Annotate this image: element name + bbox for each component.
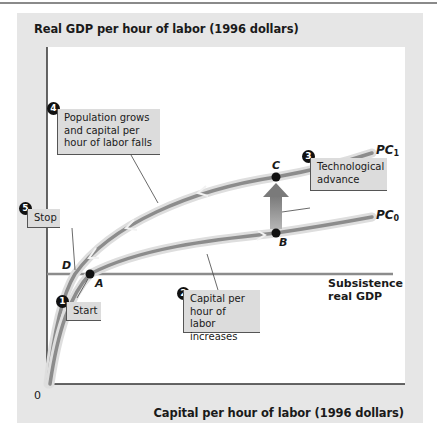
subsistence-label: Subsistence real GDP xyxy=(328,277,403,303)
productivity-chart xyxy=(0,0,437,445)
leader-2 xyxy=(207,254,218,290)
point-b-label: B xyxy=(279,236,287,249)
point-a xyxy=(86,270,95,279)
callout-start: Start xyxy=(66,302,101,321)
x-axis-label: Capital per hour of labor (1996 dollars) xyxy=(154,406,404,420)
point-c-label: C xyxy=(272,159,280,172)
leader-3 xyxy=(282,208,310,212)
callout-capital-increases: Capital per hour of labor increases xyxy=(183,290,260,333)
point-d-label: D xyxy=(62,259,71,272)
point-c xyxy=(272,173,281,182)
tech-advance-arrow-shaft xyxy=(270,196,282,229)
tech-advance-arrow-head xyxy=(263,183,289,197)
callout-technological-advance: Technological advance xyxy=(310,158,387,191)
point-a-label: A xyxy=(95,277,104,290)
origin-label: 0 xyxy=(34,389,41,402)
leader-5 xyxy=(72,228,75,270)
callout-population-grows: Population grows and capital per hour of… xyxy=(57,109,160,155)
leader-4 xyxy=(131,155,158,203)
callout-stop: Stop xyxy=(27,209,60,228)
pc1-label: PC1 xyxy=(376,143,399,158)
pc0-label: PC0 xyxy=(376,208,399,223)
